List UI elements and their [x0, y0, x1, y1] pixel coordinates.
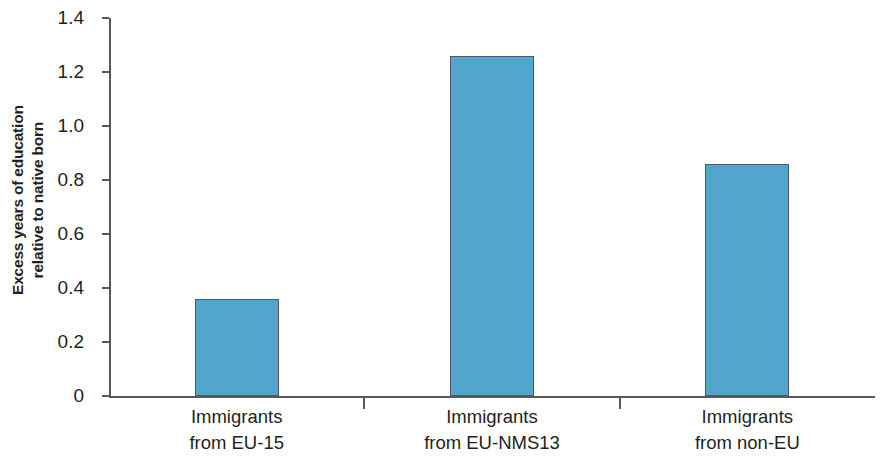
x-axis-category-label-line1: Immigrants: [446, 406, 538, 427]
y-axis-tick-label: 1.4: [14, 8, 84, 27]
y-axis-tick: [102, 287, 109, 289]
y-axis-tick-label: 0.4: [14, 278, 84, 297]
bar: [705, 164, 789, 396]
y-axis-tick: [102, 233, 109, 235]
x-axis-category-label-line2: from non-EU: [620, 430, 875, 456]
y-axis-tick-label: 0.8: [14, 170, 84, 189]
x-axis-category-labels: Immigrantsfrom EU-15Immigrantsfrom EU-NM…: [109, 404, 875, 460]
y-axis-tick: [102, 17, 109, 19]
y-axis-tick-label: 0: [14, 386, 84, 405]
y-axis-tick: [102, 341, 109, 343]
x-axis-category-label-line2: from EU-NMS13: [364, 430, 619, 456]
x-axis-category-label-line1: Immigrants: [191, 406, 283, 427]
y-axis-tick-label: 0.6: [14, 224, 84, 243]
x-axis-line: [109, 396, 875, 398]
y-axis-tick-label: 0.2: [14, 332, 84, 351]
x-axis-category-label-line2: from EU-15: [109, 430, 364, 456]
y-axis-tick-label: 1.0: [14, 116, 84, 135]
y-axis-tick: [102, 125, 109, 127]
y-axis-tick: [102, 395, 109, 397]
bar-chart: Excess years of education relative to na…: [0, 0, 880, 460]
x-axis-category-label: Immigrantsfrom EU-15: [109, 404, 364, 457]
y-axis-line: [109, 18, 111, 396]
y-axis-tick: [102, 71, 109, 73]
y-axis-tick-labels: 00.20.40.60.81.01.21.4: [0, 18, 101, 396]
x-axis-category-label-line1: Immigrants: [702, 406, 794, 427]
bar: [195, 299, 279, 396]
bar: [450, 56, 534, 396]
plot-area: [109, 18, 875, 396]
y-axis-tick: [102, 179, 109, 181]
x-axis-category-label: Immigrantsfrom non-EU: [620, 404, 875, 457]
x-axis-category-label: Immigrantsfrom EU-NMS13: [364, 404, 619, 457]
y-axis-tick-label: 1.2: [14, 62, 84, 81]
